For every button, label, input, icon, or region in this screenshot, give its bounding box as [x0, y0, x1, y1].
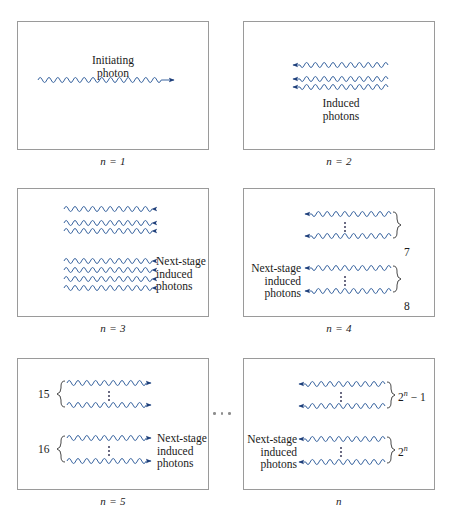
panel-n3-caption: n = 3 [17, 322, 209, 334]
count-tail: − 1 [408, 391, 426, 403]
next-stage-label-line1: Next-stage [239, 262, 301, 275]
next-stage-label-line2: induced [239, 275, 301, 288]
panel-n5: 15 16 Next-stage induced photons [17, 358, 209, 490]
initiating-photon-label-line2: photon [67, 67, 159, 80]
vdot [340, 396, 342, 398]
vdot [340, 451, 342, 453]
vdot [340, 400, 342, 402]
vdot [108, 446, 110, 448]
next-stage-label-line3: photons [156, 280, 216, 293]
hdot [228, 412, 231, 415]
next-stage-label-line3: photons [239, 287, 301, 300]
vertical-ellipsis-group2 [106, 444, 112, 456]
next-stage-label-line2: induced [156, 268, 216, 281]
panel-n2: Induced photons [243, 21, 435, 150]
vertical-ellipsis-group1 [106, 389, 112, 401]
induced-photons-label-line2: photons [295, 110, 387, 123]
panel-n1: Initiating photon [17, 21, 209, 150]
vertical-ellipsis-group1 [342, 220, 348, 232]
photon-cascade-figure: Initiating photon n = 1 Induced photons … [0, 0, 452, 516]
next-stage-label-line3: photons [157, 457, 219, 470]
panel-n1-caption: n = 1 [17, 155, 209, 167]
vdot [340, 455, 342, 457]
panel-n3: Next-stage induced photons [17, 188, 209, 317]
vdot [108, 450, 110, 452]
vdot [344, 284, 346, 286]
next-stage-label-line3: photons [235, 458, 297, 471]
next-stage-label-line2: induced [157, 445, 219, 458]
panel-n: 2n − 1 2n Next-stage induced photons [243, 358, 435, 490]
panel-n3-waves [17, 188, 209, 317]
vertical-ellipsis-group2 [342, 274, 348, 286]
vdot [344, 226, 346, 228]
group-count-8: 8 [404, 300, 410, 312]
vdot [340, 447, 342, 449]
panel-n4: 7 8 Next-stage induced photons [243, 188, 435, 317]
vdot [108, 399, 110, 401]
next-stage-induced-photons-label: Next-stage induced photons [156, 255, 216, 293]
next-stage-label-line1: Next-stage [156, 255, 216, 268]
initiating-photon-label-line1: Initiating [67, 54, 159, 67]
group-count-2n: 2n [398, 444, 408, 458]
panel-n4-caption: n = 4 [243, 322, 435, 334]
next-stage-induced-photons-label: Next-stage induced photons [235, 433, 297, 471]
panel-n5-waves [17, 358, 209, 490]
vdot [344, 280, 346, 282]
vdot [108, 395, 110, 397]
cropped-caption-remnant [62, 1, 182, 7]
vdot [344, 276, 346, 278]
group-count-16: 16 [38, 443, 50, 455]
vdot [344, 230, 346, 232]
panel-n2-waves [243, 21, 435, 150]
hdot [213, 412, 216, 415]
next-stage-induced-photons-label: Next-stage induced photons [157, 432, 219, 470]
panel-n1-waves [17, 21, 209, 150]
group-count-2n-minus-1: 2n − 1 [398, 389, 426, 403]
vdot [344, 222, 346, 224]
next-stage-induced-photons-label: Next-stage induced photons [239, 262, 301, 300]
next-stage-label-line1: Next-stage [235, 433, 297, 446]
vdot [108, 454, 110, 456]
induced-photons-label: Induced photons [295, 97, 387, 122]
vertical-ellipsis-group2 [338, 445, 344, 457]
induced-photons-label-line1: Induced [295, 97, 387, 110]
initiating-photon-label: Initiating photon [67, 54, 159, 79]
group-count-15: 15 [38, 388, 50, 400]
panel-n-caption: n [243, 495, 435, 507]
panel-n5-caption: n = 5 [17, 495, 209, 507]
group-count-7: 7 [404, 246, 410, 258]
next-stage-label-line1: Next-stage [157, 432, 219, 445]
next-stage-label-line2: induced [235, 446, 297, 459]
vdot [340, 392, 342, 394]
vertical-ellipsis-group1 [338, 390, 344, 402]
panel-n2-caption: n = 2 [243, 155, 435, 167]
count-exponent: n [404, 444, 408, 453]
hdot [221, 412, 224, 415]
panels-continuation-ellipsis [213, 412, 231, 415]
vdot [108, 391, 110, 393]
